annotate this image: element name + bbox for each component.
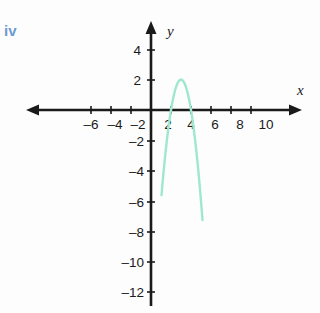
y-tick-label: –10 — [121, 255, 144, 270]
y-axis-top-arrowhead — [146, 21, 157, 34]
x-tick-label: 10 — [258, 117, 273, 132]
y-tick-label: –12 — [121, 285, 144, 300]
y-tick-label: 2 — [133, 73, 141, 88]
x-axis-left-arrowhead — [26, 105, 39, 116]
y-tick-label: –8 — [129, 225, 144, 240]
x-axis — [26, 105, 302, 116]
x-tick-label: 8 — [236, 117, 244, 132]
parabola-curve — [162, 80, 203, 221]
x-tick-label: –6 — [83, 117, 98, 132]
x-axis-name: x — [296, 82, 304, 98]
x-tick-label: –4 — [107, 117, 123, 132]
y-tick-label: –4 — [129, 164, 145, 179]
x-tick-label: 6 — [211, 117, 219, 132]
x-tick-label: –2 — [130, 117, 145, 132]
x-axis-right-arrowhead — [289, 105, 302, 116]
y-axis — [146, 21, 157, 306]
graph-plot: y x –6 –4 –2 2 4 6 8 10 — [0, 0, 320, 313]
figure-panel: iv y x –6 –4 –2 2 — [0, 0, 320, 313]
y-tick-label: –2 — [129, 134, 144, 149]
y-axis-name: y — [165, 23, 174, 39]
y-tick-label: –6 — [129, 195, 144, 210]
y-tick-label: 4 — [133, 43, 141, 58]
